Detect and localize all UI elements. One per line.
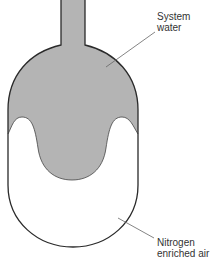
system-water-label-line1: System (157, 11, 190, 22)
expansion-vessel-diagram (0, 0, 215, 263)
system-water-leader (106, 32, 155, 67)
nitrogen-label-line1: Nitrogen (157, 237, 209, 248)
system-water-label: System water (157, 11, 190, 33)
nitrogen-label: Nitrogen enriched air (157, 237, 209, 259)
nitrogen-leader (118, 218, 154, 238)
nitrogen-label-line2: enriched air (157, 248, 209, 259)
system-water-label-line2: water (157, 22, 190, 33)
